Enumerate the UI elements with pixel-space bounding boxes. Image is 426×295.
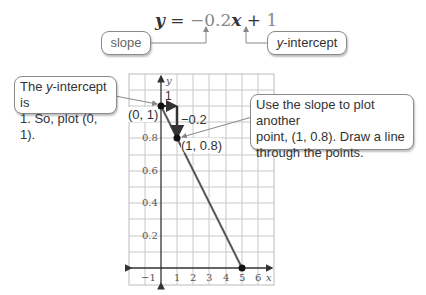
svg-text:−1: −1 [141,272,156,283]
svg-text:y: y [165,75,172,86]
intercept-connector [246,27,267,43]
run-label: 1 [165,89,172,103]
svg-text:x: x [266,272,272,283]
svg-text:0.2: 0.2 [142,230,158,241]
svg-text:1: 1 [174,272,180,283]
right-callout: Use the slope to plot another point, (1,… [250,94,414,150]
right-callout-l1: Use the slope to plot another [256,97,408,129]
slope-connector [151,27,206,43]
svg-text:0.4: 0.4 [142,197,158,208]
right-callout-l2: point, (1, 0.8). Draw a line [256,129,408,145]
left-callout-l1a: The [20,79,46,94]
svg-text:4: 4 [223,272,229,283]
svg-text:3: 3 [206,272,212,283]
point-1-0.8 [174,135,181,142]
point2-label: (1, 0.8) [181,138,222,153]
point1-label: (0, 1) [128,107,158,122]
point-0-1 [158,103,165,110]
svg-text:6: 6 [255,272,261,283]
left-callout: The y-intercept is 1. So, plot (0, 1). [14,76,117,114]
svg-text:0.6: 0.6 [142,165,158,176]
left-callout-l2: 1. So, plot (0, 1). [20,111,111,143]
svg-text:0.8: 0.8 [142,132,158,143]
right-callout-l3: through the points. [256,145,408,161]
point-5-0 [239,265,246,272]
svg-text:2: 2 [190,272,196,283]
svg-text:5: 5 [239,272,245,283]
rise-label: −0.2 [181,112,207,127]
